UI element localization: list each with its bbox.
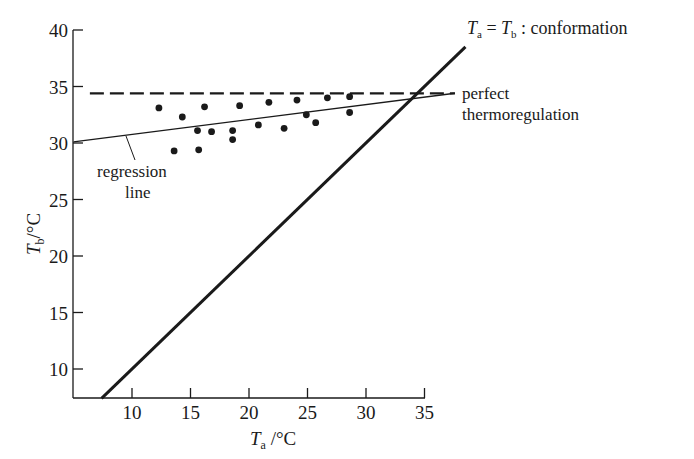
data-point (208, 128, 215, 135)
x-tick-label: 35 (415, 402, 434, 423)
data-point (324, 94, 331, 101)
x-tick-label: 10 (123, 402, 142, 423)
x-tick-label: 30 (357, 402, 376, 423)
regression-annotation-line2: line (125, 183, 151, 202)
data-point (236, 102, 243, 109)
data-point (229, 136, 236, 143)
y-title-unit: /°C (23, 213, 44, 239)
x-ticks: 101520253035 (123, 388, 435, 423)
data-point (303, 111, 310, 118)
data-point (229, 127, 236, 134)
y-tick-label: 35 (49, 77, 68, 98)
data-point (201, 103, 208, 110)
conformation-annotation: Ta = Tb : conformation (467, 18, 628, 40)
x-tick-label: 15 (181, 402, 200, 423)
regression-annotation-line1: regression (97, 162, 167, 181)
y-ticks: 10152025303540 (49, 20, 83, 380)
y-tick-label: 10 (49, 359, 68, 380)
data-point (294, 97, 301, 104)
data-point (195, 146, 202, 153)
data-points (156, 93, 354, 154)
y-axis-title: Tb/°C (23, 213, 47, 255)
data-point (171, 148, 178, 155)
data-point (346, 109, 353, 116)
conformation-rest: : conformation (517, 18, 628, 38)
regression-line (74, 93, 455, 142)
x-axis-title: Ta /°C (250, 428, 296, 452)
conformation-line (102, 47, 466, 398)
data-point (156, 105, 163, 112)
data-point (312, 119, 319, 126)
conformation-equals: = (482, 18, 501, 38)
y-tick-label: 30 (49, 133, 68, 154)
data-point (346, 93, 353, 100)
thermoregulation-chart: 10152025303540 101520253035 regression l… (0, 0, 694, 459)
y-tick-label: 40 (49, 20, 68, 41)
data-point (265, 99, 272, 106)
data-point (194, 127, 201, 134)
regression-leader-line (126, 136, 135, 160)
axes (73, 30, 425, 398)
data-point (255, 122, 262, 129)
x-tick-label: 25 (298, 402, 317, 423)
data-point (281, 125, 288, 132)
perfect-thermoregulation-annotation-line1: perfect (462, 84, 509, 103)
x-tick-label: 20 (240, 402, 259, 423)
y-tick-label: 20 (49, 246, 68, 267)
y-tick-label: 25 (49, 190, 68, 211)
x-title-unit: /°C (266, 428, 296, 449)
perfect-thermoregulation-annotation-line2: thermoregulation (462, 105, 580, 124)
y-tick-label: 15 (49, 303, 68, 324)
data-point (179, 114, 186, 121)
